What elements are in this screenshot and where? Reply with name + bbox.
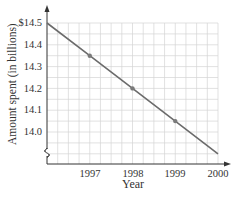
data-point-marker	[130, 86, 134, 90]
y-axis-arrow-icon	[45, 5, 50, 12]
x-axis-arrow-icon	[224, 162, 231, 167]
x-tick-label: 2000	[203, 168, 233, 180]
data-point-marker	[88, 54, 92, 58]
x-tick-label: 1999	[160, 168, 190, 180]
data-point-marker	[173, 119, 177, 123]
grid-lines	[47, 23, 218, 164]
line-chart: $14.5 14.4 14.3 14.2 14.1 14.0 1997 1998…	[0, 0, 243, 197]
y-axis-title: Amount spent (in billions)	[5, 29, 19, 145]
x-tick-label: 1997	[75, 168, 105, 180]
x-axis-title: Year	[118, 177, 148, 191]
